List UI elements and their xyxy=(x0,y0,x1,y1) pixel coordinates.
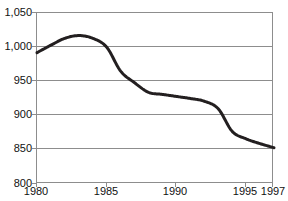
y-tick-label-1050: 1,050 xyxy=(0,7,32,18)
plot-area xyxy=(36,12,273,183)
x-tick-mark-1997 xyxy=(272,183,273,187)
x-tick-label-1995: 1995 xyxy=(233,186,257,197)
y-tick-label-950: 950 xyxy=(0,75,32,86)
x-tick-label-1980: 1980 xyxy=(24,186,48,197)
x-tick-mark-1990 xyxy=(175,183,176,187)
y-tick-label-900: 900 xyxy=(0,109,32,120)
x-tick-label-1990: 1990 xyxy=(163,186,187,197)
y-tick-label-850: 850 xyxy=(0,143,32,154)
x-tick-label-1997: 1997 xyxy=(261,186,285,197)
x-tick-mark-1980 xyxy=(36,183,37,187)
y-tick-label-1000: 1,000 xyxy=(0,41,32,52)
series-line-1 xyxy=(37,13,274,184)
x-tick-mark-1985 xyxy=(106,183,107,187)
chart-container: 800 850 900 950 1,000 1,050 1980 1985 19… xyxy=(0,0,288,201)
x-tick-mark-1995 xyxy=(245,183,246,187)
x-tick-label-1985: 1985 xyxy=(94,186,118,197)
